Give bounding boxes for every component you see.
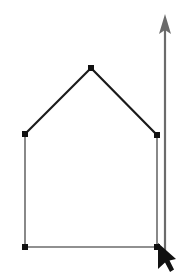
vertex-handle-right-eave[interactable] xyxy=(154,132,160,138)
vertical-up-arrow[interactable] xyxy=(159,14,171,252)
mouse-pointer-icon xyxy=(158,243,176,272)
edge-left-roof-slope[interactable] xyxy=(25,68,91,134)
drawing-canvas[interactable]: House shape outline with vertical arrow … xyxy=(0,0,195,276)
house-roof-group xyxy=(25,68,157,135)
vertex-handle-bottom-left[interactable] xyxy=(22,244,28,250)
house-walls-group xyxy=(25,134,157,247)
cursor-arrow-shape xyxy=(158,243,176,272)
vertex-handles-group xyxy=(22,65,160,250)
vertex-handle-apex[interactable] xyxy=(88,65,94,71)
vector-drawing[interactable] xyxy=(0,0,195,276)
edge-right-roof-slope[interactable] xyxy=(91,68,157,135)
vertex-handle-left-eave[interactable] xyxy=(22,131,28,137)
